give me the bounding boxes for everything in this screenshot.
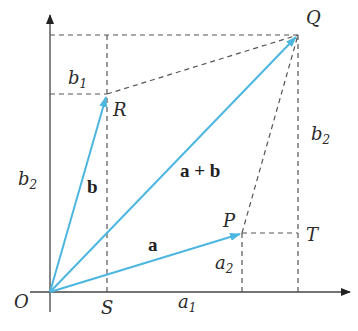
label-a2: a2 [215,252,233,276]
label-b2-left: b2 [18,168,37,192]
label-T: T [306,224,320,245]
label-R: R [112,99,127,120]
vector-addition-diagram: O S R P Q T b a + b a b1 b2 b2 a1 a2 [0,0,358,331]
label-vector-b: b [87,176,98,197]
label-vector-a-plus-b: a + b [180,160,220,181]
label-vector-a: a [148,234,158,255]
label-b2-right: b2 [311,123,330,147]
label-a1: a1 [178,291,196,315]
label-Q: Q [306,7,321,28]
label-O: O [14,291,29,312]
label-P: P [222,210,236,231]
label-b1: b1 [68,67,87,91]
label-S: S [101,297,113,318]
